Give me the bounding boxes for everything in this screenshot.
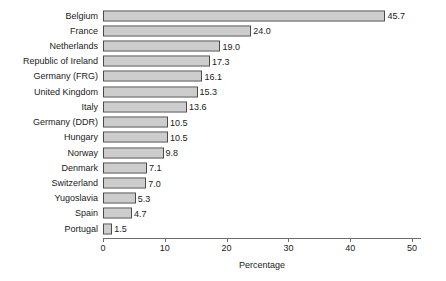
bar — [103, 86, 198, 97]
bar — [103, 101, 187, 112]
category-label: Denmark — [61, 163, 98, 173]
x-axis-tick-label: 30 — [283, 243, 293, 253]
bar-value-label: 9.8 — [166, 148, 179, 158]
bar — [103, 71, 202, 82]
bar-row: Yugoslavia5.3 — [0, 191, 446, 206]
bar — [103, 223, 112, 234]
x-axis-line — [103, 238, 421, 239]
bar-row: Switzerland7.0 — [0, 175, 446, 190]
bar-row: Norway9.8 — [0, 145, 446, 160]
bar — [103, 162, 147, 173]
bar-value-label: 19.0 — [222, 41, 240, 51]
bar-value-label: 7.1 — [149, 163, 162, 173]
bar — [103, 10, 385, 21]
bar-row: Belgium45.7 — [0, 8, 446, 23]
bar-and-value: 1.5 — [103, 223, 127, 234]
bar-value-label: 45.7 — [387, 11, 405, 21]
category-label: France — [70, 26, 98, 36]
bar-value-label: 1.5 — [114, 224, 127, 234]
bar-row: Hungary10.5 — [0, 130, 446, 145]
bar-value-label: 13.6 — [189, 102, 207, 112]
x-axis-title: Percentage — [103, 260, 421, 271]
bar-value-label: 10.5 — [170, 117, 188, 127]
bar-row: Spain4.7 — [0, 206, 446, 221]
category-label: Germany (FRG) — [33, 71, 98, 81]
bar-and-value: 19.0 — [103, 41, 240, 52]
bar-and-value: 4.7 — [103, 208, 147, 219]
bar-and-value: 24.0 — [103, 25, 271, 36]
category-label: Italy — [81, 102, 98, 112]
category-label: Yugoslavia — [54, 193, 98, 203]
bar-and-value: 5.3 — [103, 193, 150, 204]
category-label: Hungary — [64, 132, 98, 142]
bar — [103, 56, 210, 67]
bar-value-label: 4.7 — [134, 208, 147, 218]
bar-and-value: 7.0 — [103, 178, 161, 189]
bar-row: Portugal1.5 — [0, 221, 446, 236]
bar-and-value: 10.5 — [103, 132, 187, 143]
bar-and-value: 16.1 — [103, 71, 222, 82]
bar-chart: Belgium45.7France24.0Netherlands19.0Repu… — [0, 0, 446, 281]
category-label: Netherlands — [49, 41, 98, 51]
x-axis-tick — [350, 238, 351, 242]
bar-and-value: 10.5 — [103, 117, 187, 128]
x-axis-tick — [288, 238, 289, 242]
bar — [103, 193, 136, 204]
bar — [103, 178, 146, 189]
bar-row: France24.0 — [0, 23, 446, 38]
x-axis-tick-label: 0 — [100, 243, 105, 253]
bar — [103, 41, 220, 52]
bar-row: Italy13.6 — [0, 99, 446, 114]
bar-value-label: 17.3 — [212, 56, 230, 66]
bar-row: Republic of Ireland17.3 — [0, 54, 446, 69]
bar — [103, 132, 168, 143]
bar — [103, 25, 251, 36]
bar — [103, 208, 132, 219]
category-label: Republic of Ireland — [23, 56, 98, 66]
bar-and-value: 15.3 — [103, 86, 217, 97]
bar-row: Germany (FRG)16.1 — [0, 69, 446, 84]
x-axis-tick — [227, 238, 228, 242]
bar-value-label: 15.3 — [200, 87, 218, 97]
bar-value-label: 7.0 — [148, 178, 161, 188]
x-axis-tick — [103, 238, 104, 242]
bar-row: Denmark7.1 — [0, 160, 446, 175]
bar-and-value: 45.7 — [103, 10, 405, 21]
category-label: Switzerland — [51, 178, 98, 188]
category-label: Norway — [67, 148, 98, 158]
bar-value-label: 16.1 — [204, 71, 222, 81]
category-label: Portugal — [64, 224, 98, 234]
x-axis-tick-label: 20 — [222, 243, 232, 253]
bar-value-label: 5.3 — [138, 193, 151, 203]
bar-value-label: 10.5 — [170, 132, 188, 142]
x-axis-tick-label: 50 — [407, 243, 417, 253]
category-label: Belgium — [65, 11, 98, 21]
bar-row: Netherlands19.0 — [0, 38, 446, 53]
bar — [103, 147, 164, 158]
category-label: Germany (DDR) — [33, 117, 98, 127]
bar-and-value: 13.6 — [103, 101, 207, 112]
bar-and-value: 9.8 — [103, 147, 178, 158]
category-label: Spain — [75, 208, 98, 218]
bar — [103, 117, 168, 128]
x-axis-tick — [412, 238, 413, 242]
x-axis-tick-label: 10 — [160, 243, 170, 253]
category-label: United Kingdom — [34, 87, 98, 97]
bar-and-value: 17.3 — [103, 56, 229, 67]
x-axis-tick — [165, 238, 166, 242]
bar-value-label: 24.0 — [253, 26, 271, 36]
x-axis-tick-label: 40 — [345, 243, 355, 253]
bar-and-value: 7.1 — [103, 162, 161, 173]
bar-row: United Kingdom15.3 — [0, 84, 446, 99]
bar-row: Germany (DDR)10.5 — [0, 115, 446, 130]
